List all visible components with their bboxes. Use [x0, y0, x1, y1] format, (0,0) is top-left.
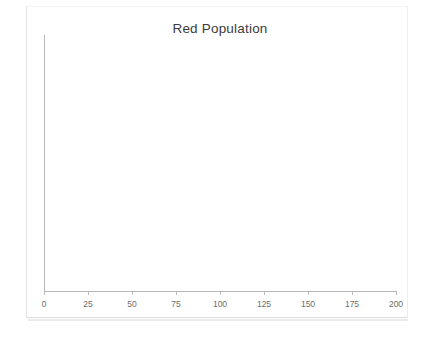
x-axis-tick-label: 25: [68, 299, 108, 309]
x-axis-tick-mark: [44, 292, 45, 295]
x-axis-tick-mark: [88, 292, 89, 295]
x-axis-tick-label: 100: [200, 299, 240, 309]
x-axis-tick-label: 75: [156, 299, 196, 309]
x-axis-tick-mark: [396, 292, 397, 295]
plot-area: [45, 35, 397, 291]
x-axis-tick-mark: [176, 292, 177, 295]
x-axis-tick-mark: [264, 292, 265, 295]
x-axis-tick-mark: [132, 292, 133, 295]
x-axis-tick-label: 175: [332, 299, 372, 309]
x-axis-tick-mark: [308, 292, 309, 295]
x-axis-tick-label: 200: [376, 299, 416, 309]
chart-title: Red Population: [44, 21, 396, 36]
figure-shadow-edge: [28, 319, 408, 321]
x-axis-tick-mark: [352, 292, 353, 295]
x-axis-tick-mark: [220, 292, 221, 295]
x-axis-tick-label: 125: [244, 299, 284, 309]
chart-figure: Red Population 0255075100125150175200: [0, 0, 430, 341]
x-axis-tick-label: 0: [24, 299, 64, 309]
x-axis-tick-label: 50: [112, 299, 152, 309]
x-axis-tick-label: 150: [288, 299, 328, 309]
